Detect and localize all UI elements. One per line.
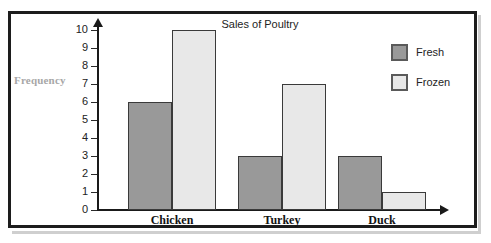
y-axis-label: Frequency — [14, 74, 66, 86]
bar — [338, 156, 382, 210]
y-axis-tick-mark — [91, 138, 97, 139]
bar — [128, 102, 172, 210]
bar — [238, 156, 282, 210]
y-axis-tick-mark — [91, 84, 97, 85]
y-axis-tick-label: 6 — [66, 95, 88, 107]
x-axis-category-label: Duck — [338, 213, 426, 228]
y-axis-tick-mark — [91, 66, 97, 67]
y-axis-line — [97, 26, 99, 211]
y-axis-tick-mark — [91, 210, 97, 211]
y-axis-tick-mark — [91, 120, 97, 121]
y-axis-tick-label: 8 — [66, 59, 88, 71]
y-axis-tick-mark — [91, 102, 97, 103]
y-axis-tick-label-wrap: 9 — [66, 41, 88, 53]
y-axis-tick-mark — [91, 30, 97, 31]
y-axis-tick-mark — [91, 48, 97, 49]
legend-label: Frozen — [416, 76, 450, 88]
y-axis-tick-label-wrap: 4 — [66, 131, 88, 143]
y-axis-tick-label: 3 — [66, 149, 88, 161]
y-axis-tick-label: 7 — [66, 77, 88, 89]
x-axis-category-label: Chicken — [128, 213, 216, 228]
y-axis-tick-label-wrap: 8 — [66, 59, 88, 71]
bar — [382, 192, 426, 210]
x-axis-category-label: Turkey — [238, 213, 326, 228]
legend-swatch-frozen — [391, 74, 408, 91]
y-axis-tick-label: 10 — [66, 23, 88, 35]
chart-title: Sales of Poultry — [150, 18, 370, 30]
arrow-up-icon — [93, 18, 103, 27]
y-axis-tick-label: 5 — [66, 113, 88, 125]
bar — [172, 30, 216, 210]
y-axis-tick-label-wrap: 1 — [66, 185, 88, 197]
y-axis-tick-label-wrap: 2 — [66, 167, 88, 179]
y-axis-tick-label: 0 — [66, 203, 88, 215]
y-axis-tick-mark — [91, 192, 97, 193]
chart-figure: Sales of Poultry Frequency 109876543210 … — [0, 0, 491, 243]
y-axis-tick-label-wrap: 5 — [66, 113, 88, 125]
y-axis-tick-label-wrap: 3 — [66, 149, 88, 161]
arrow-right-icon — [440, 205, 449, 215]
y-axis-tick-label: 4 — [66, 131, 88, 143]
legend-swatch-fresh — [391, 44, 408, 61]
y-axis-tick-label: 9 — [66, 41, 88, 53]
bar — [282, 84, 326, 210]
y-axis-tick-label: 1 — [66, 185, 88, 197]
y-axis-tick-label-wrap: 7 — [66, 77, 88, 89]
y-axis-tick-label-wrap: 6 — [66, 95, 88, 107]
plot-area: Sales of Poultry Frequency 109876543210 … — [0, 0, 491, 243]
y-axis-tick-mark — [91, 156, 97, 157]
legend-label: Fresh — [416, 46, 444, 58]
y-axis-tick-label-wrap: 0 — [66, 203, 88, 215]
y-axis-tick-mark — [91, 174, 97, 175]
y-axis-tick-label-wrap: 10 — [66, 23, 88, 35]
y-axis-tick-label: 2 — [66, 167, 88, 179]
